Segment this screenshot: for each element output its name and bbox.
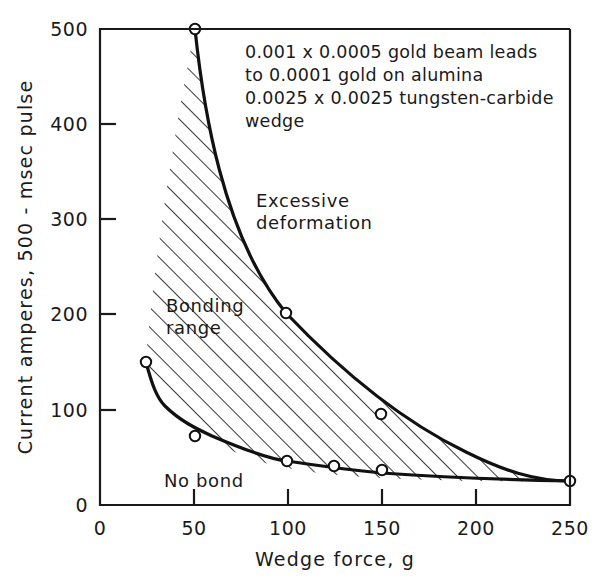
data-point (377, 465, 387, 475)
data-point (282, 456, 292, 466)
chart-figure: 500 400 300 200 100 0 0 50 100 150 200 2… (0, 0, 606, 581)
bonding-range-line-2: range (166, 317, 221, 338)
y-tick-label-400: 400 (50, 113, 88, 135)
x-axis-title: Wedge force, g (255, 548, 415, 570)
x-tick-label-50: 50 (181, 517, 206, 539)
data-point (376, 409, 386, 419)
data-point (190, 431, 200, 441)
y-tick-label-100: 100 (50, 399, 88, 421)
y-tick-label-200: 200 (50, 303, 88, 325)
data-point (329, 461, 339, 471)
note-line-1: 0.001 x 0.0005 gold beam leads (245, 42, 538, 62)
y-axis-title: Current amperes, 500 - msec pulse (14, 80, 36, 455)
note-line-2: to 0.0001 gold on alumina (245, 65, 484, 85)
region-label-excessive-deformation: Excessive deformation (256, 190, 373, 233)
y-tick-label-0: 0 (75, 494, 88, 516)
x-tick-label-150: 150 (363, 517, 401, 539)
data-point (141, 357, 151, 367)
excessive-deformation-line-1: Excessive (256, 190, 350, 211)
y-tick-label-300: 300 (50, 208, 88, 230)
conditions-note: 0.001 x 0.0005 gold beam leads to 0.0001… (245, 42, 554, 131)
figure-caption-partial (0, 571, 606, 581)
x-tick-label-250: 250 (551, 517, 589, 539)
chart-svg: 500 400 300 200 100 0 0 50 100 150 200 2… (0, 0, 606, 581)
note-line-3: 0.0025 x 0.0025 tungsten-carbide (245, 88, 554, 108)
y-axis-ticks (100, 124, 116, 410)
x-axis-ticks (194, 489, 476, 505)
x-tick-label-0: 0 (94, 517, 107, 539)
region-label-no-bond: No bond (164, 470, 244, 491)
bonding-range-line-1: Bonding (166, 295, 244, 316)
note-line-4: wedge (245, 111, 305, 131)
x-tick-label-100: 100 (269, 517, 307, 539)
excessive-deformation-line-2: deformation (256, 212, 373, 233)
y-tick-label-500: 500 (50, 18, 88, 40)
x-tick-label-200: 200 (457, 517, 495, 539)
data-point (281, 308, 291, 318)
